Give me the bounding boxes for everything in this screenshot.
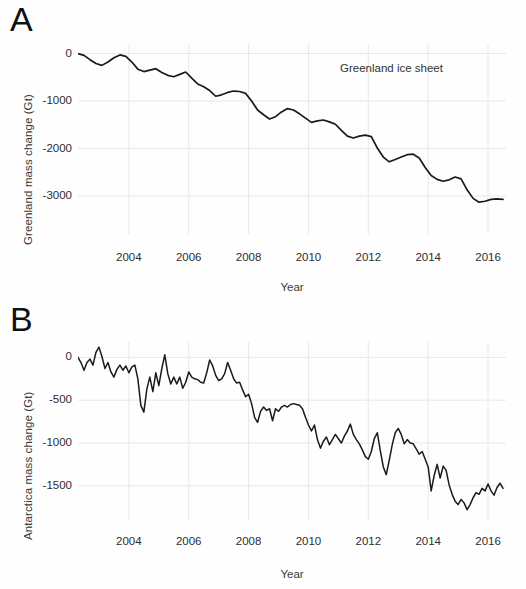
y-axis-tick-label: -3000 — [26, 190, 72, 202]
x-axis-tick-label: 2014 — [405, 252, 451, 264]
x-axis-tick-label: 2008 — [226, 252, 272, 264]
data-series-line — [78, 54, 503, 203]
y-axis-tick-label: -1500 — [26, 480, 72, 492]
x-axis-title-antarctica: Year — [232, 568, 352, 580]
y-axis-tick-label: -500 — [26, 394, 72, 406]
x-axis-tick-label: 2006 — [166, 252, 212, 264]
panel-antarctica: B Antarctica mass change (Gt) Year Antar… — [0, 300, 526, 589]
y-axis-tick-label: -1000 — [26, 95, 72, 107]
x-axis-tick-label: 2016 — [465, 536, 511, 548]
x-axis-tick-label: 2012 — [345, 252, 391, 264]
y-axis-tick-label: -1000 — [26, 437, 72, 449]
x-axis-tick-label: 2004 — [106, 252, 152, 264]
x-axis-tick-label: 2010 — [285, 252, 331, 264]
ice-sheet-mass-change-figure: A Greenland mass change (Gt) Year Greenl… — [0, 0, 526, 589]
y-axis-title-antarctica: Antarctica mass change (Gt) — [22, 392, 34, 540]
x-axis-tick-label: 2016 — [465, 252, 511, 264]
panel-letter-a: A — [10, 2, 33, 36]
x-axis-tick-label: 2014 — [405, 536, 451, 548]
x-axis-title-greenland: Year — [232, 281, 352, 293]
y-axis-tick-label: 0 — [26, 351, 72, 363]
y-axis-title-greenland: Greenland mass change (Gt) — [22, 94, 34, 245]
x-axis-tick-label: 2012 — [345, 536, 391, 548]
panel-letter-b: B — [10, 302, 33, 336]
y-axis-tick-label: -2000 — [26, 143, 72, 155]
x-axis-tick-label: 2010 — [285, 536, 331, 548]
antarctica-line-chart — [78, 342, 506, 520]
y-axis-tick-label: 0 — [26, 48, 72, 60]
annotation-greenland: Greenland ice sheet — [340, 62, 443, 74]
x-axis-tick-label: 2006 — [166, 536, 212, 548]
x-axis-tick-label: 2008 — [226, 536, 272, 548]
x-axis-tick-label: 2004 — [106, 536, 152, 548]
plot-area-antarctica — [78, 342, 506, 520]
panel-greenland: A Greenland mass change (Gt) Year Greenl… — [0, 0, 526, 300]
